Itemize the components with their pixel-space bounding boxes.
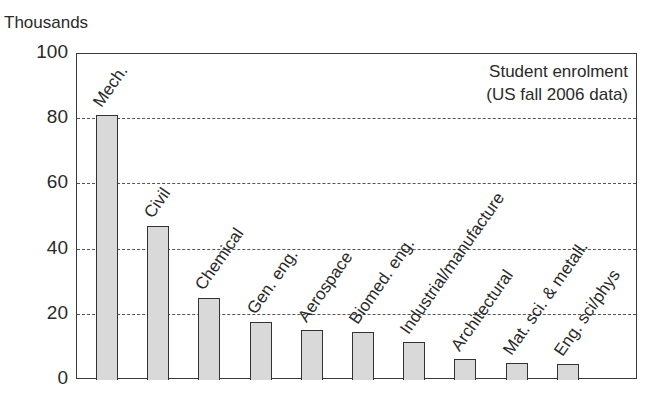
bar	[301, 330, 323, 380]
bar	[147, 226, 169, 380]
bar	[250, 322, 272, 380]
y-axis-label: Thousands	[4, 13, 88, 33]
annotation-line-2: (US fall 2006 data)	[486, 83, 628, 106]
gridline	[77, 183, 636, 184]
chart-annotation: Student enrolment (US fall 2006 data)	[486, 60, 628, 106]
bar	[352, 332, 374, 380]
bar	[454, 359, 476, 380]
gridline	[77, 118, 636, 119]
bar	[198, 298, 220, 381]
annotation-line-1: Student enrolment	[486, 60, 628, 83]
y-tick-label: 60	[8, 171, 68, 193]
y-tick-label: 40	[8, 237, 68, 259]
y-tick-label: 20	[8, 302, 68, 324]
y-tick-label: 0	[8, 367, 68, 389]
y-tick-label: 100	[8, 41, 68, 63]
bar	[557, 364, 579, 380]
bar	[403, 342, 425, 380]
y-tick-label: 80	[8, 106, 68, 128]
bar	[506, 363, 528, 380]
bar	[96, 115, 118, 380]
